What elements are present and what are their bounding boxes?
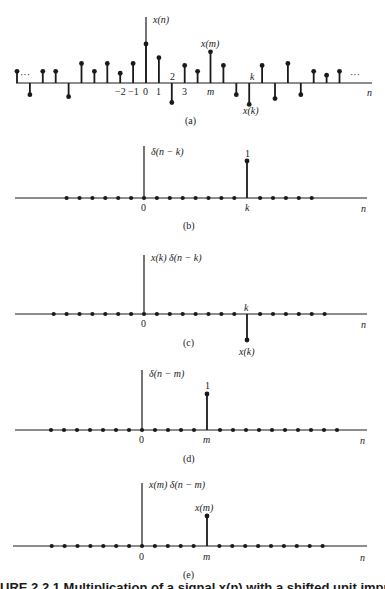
zero-sample-dot bbox=[101, 428, 105, 432]
zero-sample-dot bbox=[166, 428, 170, 432]
zero-sample-dot bbox=[168, 312, 172, 316]
zero-sample-dot bbox=[77, 196, 81, 200]
sample-dot bbox=[169, 100, 174, 105]
zero-sample-dot bbox=[114, 428, 118, 432]
panel-c: x(k) δ(n − k) 0 k n x(k) (c) bbox=[15, 252, 367, 358]
value-label: 1 bbox=[245, 148, 250, 159]
panel-caption: (d) bbox=[183, 453, 195, 465]
zero-sample-dot bbox=[194, 312, 198, 316]
tick-label: k bbox=[244, 302, 249, 313]
zero-sample-dot bbox=[140, 428, 144, 432]
tick-label: m bbox=[207, 86, 214, 97]
zero-sample-dot bbox=[101, 544, 105, 548]
sample-dot bbox=[40, 69, 45, 74]
ellipsis-right: ··· bbox=[350, 69, 360, 80]
figure-caption: URE 2.2.1 Multiplication of a signal x(n… bbox=[0, 580, 385, 589]
y-axis-label: x(m) δ(n − m) bbox=[148, 479, 206, 491]
impulse-dot bbox=[245, 338, 250, 343]
zero-sample-dot bbox=[65, 196, 69, 200]
zero-sample-dot bbox=[181, 196, 185, 200]
zero-sample-dot bbox=[258, 312, 262, 316]
zero-sample-dot bbox=[296, 428, 300, 432]
tick-label: 1 bbox=[156, 86, 161, 97]
annotation-xm: x(m) bbox=[200, 38, 220, 50]
panel-e: x(m) δ(n − m) x(m) 0 m n (e) bbox=[13, 479, 367, 581]
zero-sample-dot bbox=[218, 428, 222, 432]
panel-caption: (c) bbox=[183, 337, 194, 349]
zero-sample-dot bbox=[49, 428, 53, 432]
ellipsis-left: ··· bbox=[20, 69, 30, 80]
zero-sample-dot bbox=[194, 196, 198, 200]
sample-dot bbox=[131, 61, 136, 66]
sample-dot bbox=[53, 69, 58, 74]
tick-label: 0 bbox=[141, 318, 146, 329]
zero-sample-dot bbox=[75, 428, 79, 432]
tick-label: 0 bbox=[139, 551, 144, 562]
sample-dot bbox=[92, 69, 97, 74]
zero-sample-dot bbox=[310, 312, 314, 316]
value-label: 1 bbox=[205, 380, 210, 391]
zero-sample-dot bbox=[308, 544, 312, 548]
zero-sample-dot bbox=[155, 196, 159, 200]
zero-sample-dot bbox=[219, 312, 223, 316]
tick-label: k bbox=[245, 202, 250, 213]
sample-dot bbox=[182, 63, 187, 68]
zero-sample-dot bbox=[90, 196, 94, 200]
sample-dot bbox=[221, 63, 226, 68]
sample-dot bbox=[15, 69, 20, 74]
sample-dot bbox=[118, 71, 123, 76]
zero-sample-dot bbox=[88, 428, 92, 432]
zero-sample-dot bbox=[282, 544, 286, 548]
tick-label: m bbox=[203, 551, 210, 562]
zero-sample-dot bbox=[63, 544, 67, 548]
value-label: x(m) bbox=[194, 502, 214, 514]
zero-sample-dot bbox=[153, 544, 157, 548]
annotation-xk: x(k) bbox=[242, 105, 259, 117]
zero-sample-dot bbox=[206, 196, 210, 200]
zero-sample-dot bbox=[258, 196, 262, 200]
zero-sample-dot bbox=[142, 312, 146, 316]
zero-sample-dot bbox=[309, 428, 313, 432]
sample-dot bbox=[28, 92, 33, 97]
zero-sample-dot bbox=[232, 196, 236, 200]
panel-caption: (b) bbox=[183, 220, 195, 232]
panel-caption: (a) bbox=[185, 115, 196, 127]
tick-label: 0 bbox=[143, 86, 148, 97]
tick-label: −2 bbox=[115, 86, 126, 97]
x-axis-label: n bbox=[360, 435, 365, 446]
sample-dot bbox=[298, 92, 303, 97]
tick-label: 0 bbox=[141, 202, 146, 213]
zero-sample-dot bbox=[243, 544, 247, 548]
zero-sample-dot bbox=[168, 196, 172, 200]
zero-sample-dot bbox=[129, 312, 133, 316]
zero-sample-dot bbox=[116, 312, 120, 316]
zero-sample-dot bbox=[127, 544, 131, 548]
zero-sample-dot bbox=[140, 544, 144, 548]
zero-sample-dot bbox=[90, 312, 94, 316]
zero-sample-dot bbox=[206, 312, 210, 316]
tick-label: 2 bbox=[170, 71, 175, 82]
zero-sample-dot bbox=[271, 312, 275, 316]
sample-dot bbox=[337, 69, 342, 74]
zero-sample-dot bbox=[142, 196, 146, 200]
zero-sample-dot bbox=[116, 196, 120, 200]
zero-sample-dot bbox=[283, 428, 287, 432]
tick-label: −1 bbox=[128, 86, 139, 97]
sample-dot bbox=[286, 61, 291, 66]
zero-sample-dot bbox=[297, 312, 301, 316]
sample-dot bbox=[324, 73, 329, 78]
zero-sample-dot bbox=[219, 196, 223, 200]
zero-sample-dot bbox=[335, 428, 339, 432]
zero-sample-dot bbox=[103, 196, 107, 200]
zero-sample-dot bbox=[52, 312, 56, 316]
y-axis-label: δ(n − k) bbox=[151, 146, 184, 158]
zero-sample-dot bbox=[231, 428, 235, 432]
zero-sample-dot bbox=[181, 312, 185, 316]
panel-a: ··· ··· x(n) n −2 −1 0 1 2 3 m k x(m) x(… bbox=[15, 14, 372, 127]
sample-dot bbox=[195, 69, 200, 74]
sample-dot bbox=[157, 55, 162, 60]
stems bbox=[15, 42, 342, 107]
zero-sample-dot bbox=[65, 312, 69, 316]
sample-dot bbox=[144, 42, 149, 47]
zero-sample-dot bbox=[77, 312, 81, 316]
